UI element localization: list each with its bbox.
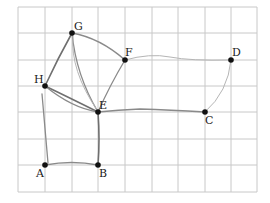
label-f: F (125, 46, 133, 59)
graph-diagram: A B C D E F G H (0, 0, 270, 203)
label-a: A (35, 167, 45, 180)
label-h: H (34, 73, 44, 86)
label-c: C (205, 114, 213, 127)
label-e: E (99, 99, 107, 112)
label-b: B (99, 167, 107, 180)
edges (42, 33, 231, 165)
label-g: G (74, 20, 83, 33)
label-d: D (232, 46, 241, 59)
edge-g-e-2 (73, 36, 97, 110)
